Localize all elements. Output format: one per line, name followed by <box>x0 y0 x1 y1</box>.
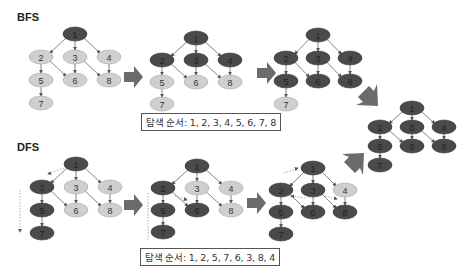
svg-text:8: 8 <box>441 142 446 152</box>
svg-text:7: 7 <box>160 228 165 238</box>
edge-1-4 <box>322 172 336 186</box>
svg-text:3: 3 <box>310 186 315 196</box>
node-6: 6 <box>400 139 424 153</box>
node-6: 6 <box>306 74 330 88</box>
svg-text:7: 7 <box>159 100 164 110</box>
edge-3-8 <box>206 192 222 206</box>
node-4: 4 <box>219 181 243 195</box>
node-5: 5 <box>29 73 53 87</box>
svg-text:5: 5 <box>160 206 165 216</box>
edge-3-8 <box>205 64 221 78</box>
svg-text:6: 6 <box>409 142 414 152</box>
svg-text:8: 8 <box>347 77 352 87</box>
node-3: 3 <box>64 180 88 194</box>
node-7: 7 <box>29 96 53 110</box>
node-6: 6 <box>63 73 87 87</box>
edge-1-2 <box>50 38 66 53</box>
step-arrow-icon <box>247 192 266 214</box>
node-3: 3 <box>400 120 424 134</box>
node-3: 3 <box>185 181 209 195</box>
svg-text:4: 4 <box>347 54 352 64</box>
svg-text:7: 7 <box>39 229 44 239</box>
edge-3-8 <box>84 61 100 76</box>
svg-text:6: 6 <box>194 206 199 216</box>
edge-1-4 <box>421 112 434 124</box>
edge-1-2 <box>51 168 67 183</box>
svg-text:6: 6 <box>72 76 77 86</box>
svg-text:5: 5 <box>39 206 44 216</box>
node-5: 5 <box>269 205 293 219</box>
node-4: 4 <box>333 183 357 197</box>
node-2: 2 <box>368 120 392 134</box>
node-6: 6 <box>301 205 325 219</box>
edge-1-4 <box>327 39 341 54</box>
node-4: 4 <box>97 50 121 64</box>
edge-3-8 <box>322 194 336 208</box>
svg-text:1: 1 <box>310 164 315 174</box>
node-1: 1 <box>185 159 209 173</box>
node-5: 5 <box>150 75 174 89</box>
svg-text:1: 1 <box>73 160 78 170</box>
node-6: 6 <box>185 203 209 217</box>
step-arrow-icon <box>124 66 143 88</box>
edge-2-6 <box>172 192 188 206</box>
node-2: 2 <box>30 180 54 194</box>
svg-text:6: 6 <box>73 206 78 216</box>
bfs-order-box: 탐색 순서: 1, 2, 3, 4, 5, 6, 7, 8 <box>141 113 281 131</box>
node-1: 1 <box>306 28 330 42</box>
node-8: 8 <box>432 139 456 153</box>
svg-text:3: 3 <box>315 54 320 64</box>
svg-text:5: 5 <box>283 77 288 87</box>
node-3: 3 <box>301 183 325 197</box>
svg-text:1: 1 <box>409 104 414 114</box>
edge-1-4 <box>205 42 221 56</box>
svg-text:3: 3 <box>194 184 199 194</box>
edge-2-6 <box>171 64 187 78</box>
node-4: 4 <box>218 53 242 67</box>
node-8: 8 <box>333 205 357 219</box>
svg-text:1: 1 <box>194 162 199 172</box>
node-3: 3 <box>306 51 330 65</box>
svg-text:1: 1 <box>193 34 198 44</box>
svg-text:7: 7 <box>38 99 43 109</box>
edge-2-6 <box>50 61 66 76</box>
node-7: 7 <box>30 226 54 240</box>
node-5: 5 <box>151 203 175 217</box>
edge-1-2 <box>171 42 187 56</box>
svg-text:6: 6 <box>193 78 198 88</box>
node-8: 8 <box>219 203 243 217</box>
node-7: 7 <box>151 225 175 239</box>
node-2: 2 <box>269 183 293 197</box>
graph-dfs-1: 12345678 <box>30 157 122 240</box>
node-8: 8 <box>97 73 121 87</box>
edge-3-8 <box>327 62 341 77</box>
svg-text:4: 4 <box>227 56 232 66</box>
graph-bfs-2: 12345678 <box>150 31 242 111</box>
node-4: 4 <box>432 120 456 134</box>
node-7: 7 <box>368 158 392 172</box>
svg-text:8: 8 <box>106 76 111 86</box>
svg-text:6: 6 <box>310 208 315 218</box>
graph-final: 12345678 <box>368 101 456 172</box>
node-5: 5 <box>274 74 298 88</box>
edge-2-6 <box>295 62 309 77</box>
svg-text:3: 3 <box>193 56 198 66</box>
svg-text:4: 4 <box>106 53 111 63</box>
edge-3-8 <box>421 131 434 143</box>
node-5: 5 <box>30 203 54 217</box>
edge-3-8 <box>85 191 101 206</box>
svg-text:7: 7 <box>283 100 288 110</box>
node-8: 8 <box>218 75 242 89</box>
svg-text:3: 3 <box>73 183 78 193</box>
svg-text:8: 8 <box>342 208 347 218</box>
traversal-diagram: 1234567812345678123456781234567812345678… <box>0 0 469 271</box>
node-3: 3 <box>184 53 208 67</box>
node-1: 1 <box>64 157 88 171</box>
svg-text:2: 2 <box>160 184 165 194</box>
node-4: 4 <box>98 180 122 194</box>
edge-1-4 <box>84 38 100 53</box>
node-1: 1 <box>400 101 424 115</box>
svg-text:5: 5 <box>278 208 283 218</box>
svg-text:7: 7 <box>377 161 382 171</box>
node-7: 7 <box>150 97 174 111</box>
